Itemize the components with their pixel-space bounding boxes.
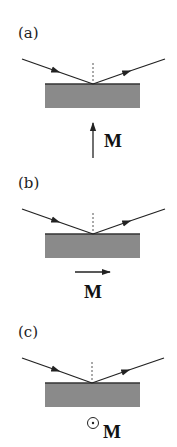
- reflected-ray-arrow-icon: [93, 222, 127, 234]
- magnetization-out-of-plane-icon: [88, 418, 99, 429]
- reflected-ray: [127, 209, 165, 222]
- sample-slab: [45, 234, 140, 258]
- incident-ray: [56, 221, 93, 234]
- incident-ray: [56, 71, 93, 84]
- magnetization-label: M: [104, 130, 122, 151]
- panel-a: (a) M: [18, 24, 165, 158]
- panel-label: (b): [18, 174, 39, 192]
- incident-ray-arrow-icon: [22, 358, 56, 370]
- panel-label: (c): [18, 323, 38, 341]
- incident-ray-arrow-icon: [22, 59, 56, 71]
- reflected-ray-arrow-icon: [92, 371, 126, 383]
- reflected-ray: [127, 59, 165, 72]
- reflected-ray: [126, 358, 164, 371]
- magnetization-label: M: [84, 281, 102, 302]
- panel-b: (b) M: [18, 174, 165, 302]
- incident-ray-arrow-icon: [22, 209, 56, 221]
- sample-slab: [45, 383, 140, 407]
- incident-ray: [56, 370, 92, 383]
- panel-c: (c) M: [18, 323, 164, 442]
- panel-label: (a): [18, 24, 39, 42]
- reflected-ray-arrow-icon: [93, 72, 127, 84]
- moke-geometry-diagram: (a) M (b) M (c) M: [0, 0, 177, 447]
- sample-slab: [45, 84, 140, 108]
- magnetization-label: M: [103, 421, 121, 442]
